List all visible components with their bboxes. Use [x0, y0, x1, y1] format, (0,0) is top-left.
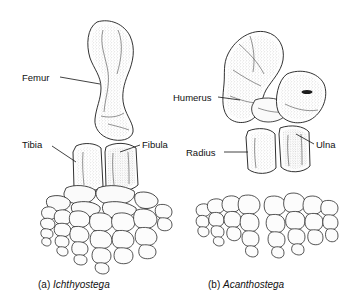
caption-a-genus: Ichthyostega	[53, 279, 110, 290]
digit-ray	[284, 193, 305, 255]
digit-ray	[90, 213, 113, 274]
digit-ray	[303, 196, 323, 245]
ichthyostega-digits	[41, 204, 172, 274]
femur-leader	[60, 77, 100, 84]
humerus-blade	[276, 71, 325, 123]
label-ulna: Ulna	[316, 140, 336, 150]
ulna-bone	[279, 126, 310, 172]
digit-ray	[238, 195, 260, 257]
caption-b: (b) Acanthostega	[208, 280, 284, 290]
label-tibia: Tibia	[22, 140, 42, 150]
femur-bone	[88, 21, 134, 141]
label-humerus: Humerus	[173, 93, 212, 103]
figure-panel: Femur Tibia Fibula Humerus Radius Ulna (…	[0, 0, 356, 302]
digit-ray	[155, 204, 172, 230]
digit-ray	[69, 211, 90, 265]
caption-b-genus: Acanthostega	[223, 279, 284, 290]
digit-ray	[112, 213, 135, 264]
digit-ray	[321, 200, 338, 241]
skeleton-illustration	[0, 0, 356, 302]
acanthostega-digits	[196, 193, 338, 258]
fibula-bone	[105, 143, 138, 191]
digit-ray	[134, 209, 157, 259]
label-fibula: Fibula	[142, 140, 168, 150]
caption-b-marker: (b)	[208, 279, 220, 290]
digit-ray	[264, 196, 286, 258]
radius-bone	[246, 129, 276, 174]
label-femur: Femur	[22, 73, 49, 83]
caption-a-marker: (a)	[38, 279, 50, 290]
tibia-leader	[52, 146, 76, 162]
tibia-bone	[73, 144, 103, 192]
label-radius: Radius	[186, 148, 216, 158]
caption-a: (a) Ichthyostega	[38, 280, 110, 290]
